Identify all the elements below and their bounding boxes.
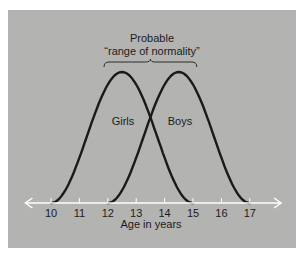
- x-axis-label: Age in years: [120, 218, 182, 230]
- annotation-line-2: “range of normality”: [104, 45, 200, 57]
- x-tick-label: 12: [102, 207, 114, 219]
- series-label-girls: Girls: [112, 115, 135, 127]
- series-label-boys: Boys: [168, 115, 193, 127]
- x-ticks: 1011121314151617: [45, 198, 256, 219]
- x-tick-label: 15: [187, 207, 199, 219]
- x-tick-label: 11: [74, 207, 85, 219]
- curves-group: [51, 72, 250, 203]
- curve-boys: [108, 72, 250, 203]
- annotation-line-1: Probable: [130, 32, 174, 44]
- range-brace: [104, 59, 197, 67]
- x-tick-label: 10: [45, 207, 57, 219]
- x-tick-label: 17: [244, 207, 256, 219]
- growth-spurt-chart: 1011121314151617 Age in years Probable “…: [0, 0, 304, 254]
- x-tick-label: 16: [215, 207, 227, 219]
- curve-girls: [51, 72, 193, 203]
